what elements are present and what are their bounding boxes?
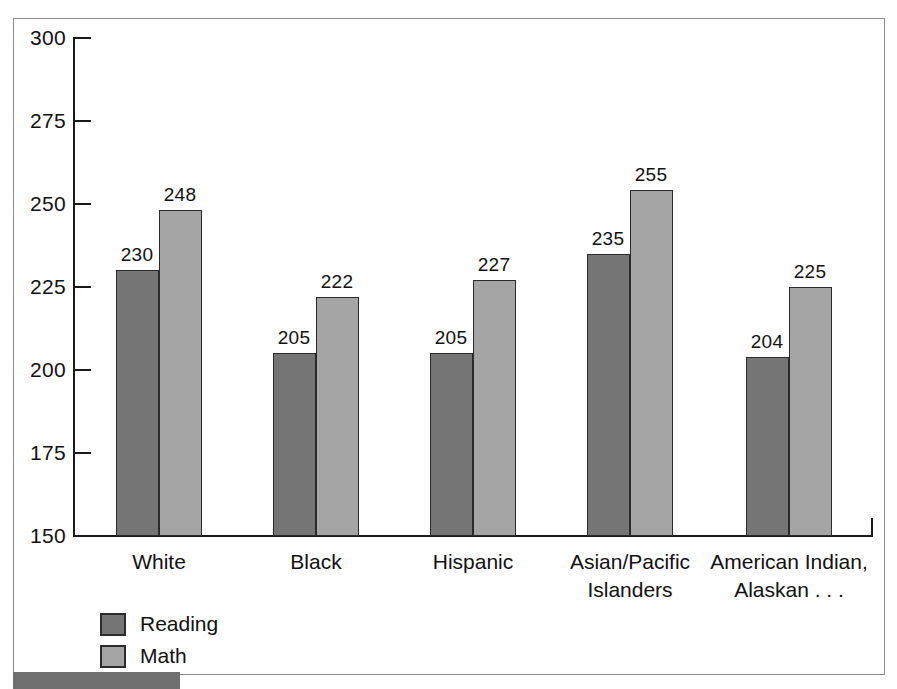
bar-hispanic-math[interactable] xyxy=(473,280,516,536)
legend-swatch-math-icon xyxy=(100,645,126,668)
y-tick-175 xyxy=(73,452,91,454)
bar-label-black-reading: 205 xyxy=(259,327,329,349)
page-surface: 300 275 250 225 200 175 150 230 248 Whit… xyxy=(0,0,897,689)
x-axis-end-tick xyxy=(871,518,873,536)
legend-item-math[interactable]: Math xyxy=(100,640,218,672)
y-tick-label-250: 250 xyxy=(18,192,66,216)
y-tick-250 xyxy=(73,203,91,205)
category-label-american-indian-line2: Alaskan . . . xyxy=(694,576,884,604)
y-tick-150 xyxy=(73,535,91,537)
y-tick-label-275: 275 xyxy=(18,109,66,133)
bar-label-hispanic-reading: 205 xyxy=(416,327,486,349)
bar-label-white-reading: 230 xyxy=(102,244,172,266)
y-tick-label-200: 200 xyxy=(18,358,66,382)
bar-label-white-math: 248 xyxy=(145,184,215,206)
bar-label-black-math: 222 xyxy=(302,271,372,293)
bar-american-indian-math[interactable] xyxy=(789,287,832,536)
chart-legend: Reading Math xyxy=(100,608,218,672)
bar-chart-plot-area: 300 275 250 225 200 175 150 230 248 Whit… xyxy=(0,0,897,689)
y-tick-label-225: 225 xyxy=(18,275,66,299)
bar-asian-pacific-reading[interactable] xyxy=(587,254,630,536)
y-tick-275 xyxy=(73,120,91,122)
bar-label-american-indian-reading: 204 xyxy=(732,331,802,353)
y-tick-label-300: 300 xyxy=(18,26,66,50)
category-label-american-indian-line1: American Indian, xyxy=(694,548,884,576)
bar-label-asian-pacific-math: 255 xyxy=(616,164,686,186)
y-tick-200 xyxy=(73,369,91,371)
legend-label-reading: Reading xyxy=(140,612,218,636)
bar-black-reading[interactable] xyxy=(273,353,316,536)
legend-item-reading[interactable]: Reading xyxy=(100,608,218,640)
bar-label-american-indian-math: 225 xyxy=(775,261,845,283)
bar-american-indian-reading[interactable] xyxy=(746,357,789,536)
bar-white-reading[interactable] xyxy=(116,270,159,536)
bar-label-asian-pacific-reading: 235 xyxy=(573,228,643,250)
page-footer-band xyxy=(13,672,180,689)
bar-label-hispanic-math: 227 xyxy=(459,254,529,276)
y-tick-label-150: 150 xyxy=(18,524,66,548)
y-tick-225 xyxy=(73,286,91,288)
legend-label-math: Math xyxy=(140,644,187,668)
y-tick-label-175: 175 xyxy=(18,441,66,465)
legend-swatch-reading-icon xyxy=(100,613,126,636)
y-tick-300 xyxy=(73,37,91,39)
bar-hispanic-reading[interactable] xyxy=(430,353,473,536)
